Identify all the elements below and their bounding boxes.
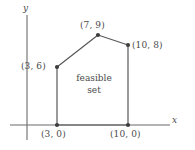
vertex-dot-3-0 (55, 123, 59, 127)
vertex-label-3-6: (3, 6) (21, 62, 46, 71)
vertex-label-3-0: (3, 0) (41, 130, 66, 139)
feasible-set-figure: y x (3, 6) (7, 9) (10, 8) (3, 0) (10, 0)… (0, 0, 195, 150)
x-axis-label: x (172, 116, 177, 125)
region-label-line1: feasible (68, 74, 120, 83)
vertex-label-10-8: (10, 8) (132, 41, 163, 50)
vertex-dot-10-0 (126, 123, 130, 127)
vertex-label-7-9: (7, 9) (80, 21, 105, 30)
vertex-dot-7-9 (96, 33, 100, 37)
region-label-line2: set (68, 86, 120, 95)
vertex-dot-10-8 (126, 43, 130, 47)
vertex-label-10-0: (10, 0) (110, 130, 141, 139)
y-axis-label: y (23, 4, 28, 13)
vertex-dot-3-6 (55, 65, 59, 69)
